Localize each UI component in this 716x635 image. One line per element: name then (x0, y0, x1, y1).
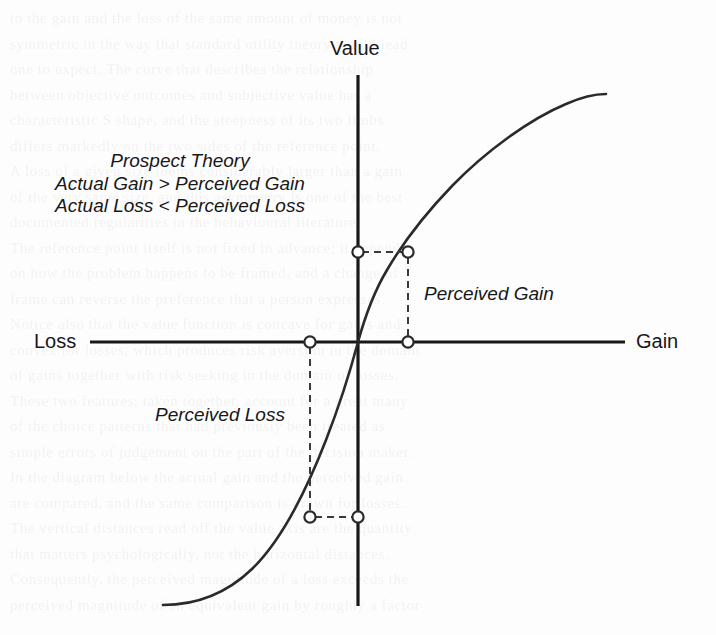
annotation-line-2: Actual Gain > Perceived Gain (38, 173, 322, 196)
figure-canvas (0, 0, 716, 635)
marker-gain-on-curve (402, 246, 413, 257)
marker-perceived-gain-on-value-axis (352, 246, 363, 257)
prospect-theory-value-function-figure (0, 0, 716, 635)
marker-actual-loss-on-loss-axis (304, 336, 315, 347)
x-axis-left-label: Loss (34, 330, 76, 353)
marker-actual-gain-on-gain-axis (402, 336, 413, 347)
marker-perceived-loss-on-value-axis (352, 511, 363, 522)
annotation-line-3: Actual Loss < Perceived Loss (38, 195, 322, 218)
annotation-line-1: Prospect Theory (38, 150, 322, 173)
perceived-loss-callout: Perceived Loss (155, 404, 285, 426)
marker-loss-on-curve (304, 511, 315, 522)
x-axis-right-label: Gain (636, 330, 678, 353)
prospect-theory-annotation: Prospect Theory Actual Gain > Perceived … (38, 150, 322, 218)
scanned-page: to the gain and the loss of the same amo… (0, 0, 716, 635)
y-axis-label: Value (330, 37, 380, 60)
perceived-gain-callout: Perceived Gain (424, 283, 554, 305)
